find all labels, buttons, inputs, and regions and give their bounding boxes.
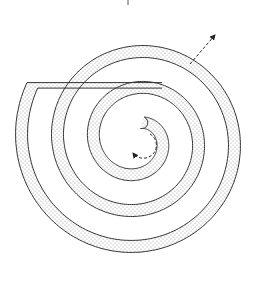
rotation-arrow-icon [133, 134, 156, 158]
spiral-diagram [0, 0, 255, 286]
spiral-band [16, 46, 241, 253]
outward-arrow-icon [190, 35, 215, 64]
spiral-svg [0, 0, 255, 286]
